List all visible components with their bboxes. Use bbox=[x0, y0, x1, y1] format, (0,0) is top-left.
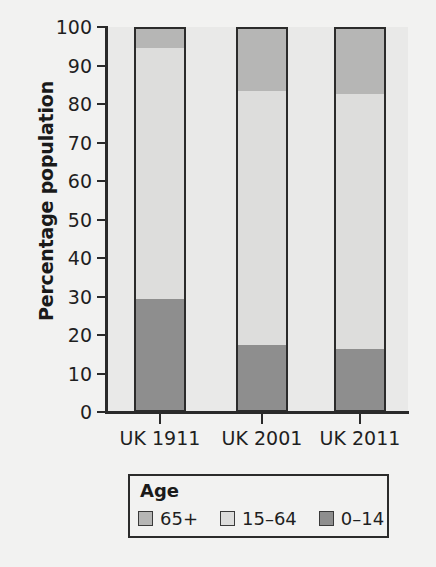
bar-segment-014 bbox=[136, 299, 184, 413]
bar-uk-1911 bbox=[134, 27, 186, 412]
x-tick-2 bbox=[359, 413, 361, 424]
y-tick-60 bbox=[97, 180, 106, 182]
y-tick-label-0: 0 bbox=[36, 401, 92, 423]
y-tick-50 bbox=[97, 219, 106, 221]
legend-item-1564: 15–64 bbox=[220, 508, 297, 529]
stacked-bar-chart: Percentage population 010203040506070809… bbox=[0, 0, 436, 567]
y-tick-label-90: 90 bbox=[36, 55, 92, 77]
y-tick-30 bbox=[97, 296, 106, 298]
bar-segment-014 bbox=[238, 345, 286, 412]
bar-uk-2011 bbox=[334, 27, 386, 412]
legend-label: 65+ bbox=[160, 508, 198, 529]
y-tick-80 bbox=[97, 103, 106, 105]
legend-title: Age bbox=[140, 480, 179, 501]
y-tick-70 bbox=[97, 142, 106, 144]
bar-uk-2001 bbox=[236, 27, 288, 412]
y-tick-label-80: 80 bbox=[36, 93, 92, 115]
y-tick-100 bbox=[97, 26, 106, 28]
bar-segment-014 bbox=[336, 349, 384, 412]
legend-item-65+: 65+ bbox=[138, 508, 198, 529]
bar-segment-65+ bbox=[336, 29, 384, 94]
legend-items: 65+15–640–14 bbox=[138, 508, 385, 529]
x-tick-1 bbox=[261, 413, 263, 424]
legend-label: 0–14 bbox=[341, 508, 384, 529]
y-tick-label-60: 60 bbox=[36, 170, 92, 192]
y-tick-label-100: 100 bbox=[36, 16, 92, 38]
legend-swatch-icon bbox=[319, 511, 334, 526]
y-tick-0 bbox=[97, 411, 106, 413]
legend-label: 15–64 bbox=[242, 508, 297, 529]
x-axis-label-uk-2011: UK 2011 bbox=[290, 427, 430, 449]
bar-segment-1564 bbox=[238, 91, 286, 345]
y-tick-label-40: 40 bbox=[36, 247, 92, 269]
y-tick-label-70: 70 bbox=[36, 132, 92, 154]
legend-swatch-icon bbox=[220, 511, 235, 526]
legend-swatch-icon bbox=[138, 511, 153, 526]
y-tick-label-20: 20 bbox=[36, 324, 92, 346]
bar-segment-1564 bbox=[136, 48, 184, 298]
y-tick-20 bbox=[97, 334, 106, 336]
y-tick-label-30: 30 bbox=[36, 286, 92, 308]
legend: Age 65+15–640–14 bbox=[128, 474, 389, 538]
y-tick-10 bbox=[97, 373, 106, 375]
legend-item-014: 0–14 bbox=[319, 508, 384, 529]
y-tick-90 bbox=[97, 65, 106, 67]
x-tick-0 bbox=[159, 413, 161, 424]
y-tick-label-10: 10 bbox=[36, 363, 92, 385]
y-tick-40 bbox=[97, 257, 106, 259]
bar-segment-1564 bbox=[336, 94, 384, 348]
y-tick-label-50: 50 bbox=[36, 209, 92, 231]
bar-segment-65+ bbox=[136, 29, 184, 48]
bar-segment-65+ bbox=[238, 29, 286, 91]
